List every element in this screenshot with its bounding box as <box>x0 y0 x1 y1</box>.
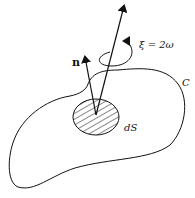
surface-element-ds <box>73 99 119 135</box>
vorticity-label: ξ = 2ω <box>139 39 174 50</box>
area-element-label: dS <box>124 122 137 133</box>
curve-label: C <box>182 77 190 88</box>
vorticity-diagram: n ξ = 2ω C dS <box>0 0 195 198</box>
rotation-arrow-icon <box>99 41 132 66</box>
normal-label: n <box>72 56 80 69</box>
vorticity-arrow <box>96 6 124 115</box>
